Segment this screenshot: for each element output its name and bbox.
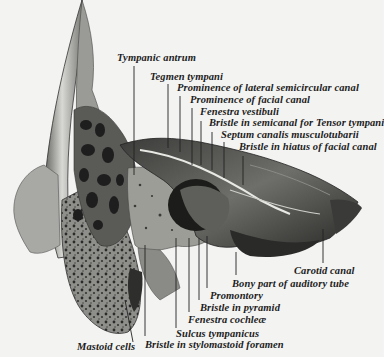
- label-tympanic-antrum: Tympanic antrum: [117, 53, 196, 64]
- label-bristle-hiatus-facial-canal: Bristle in hiatus of facial canal: [239, 142, 377, 153]
- label-tegmen-tympani: Tegmen tympani: [150, 72, 223, 83]
- label-promontory: Promontory: [210, 291, 263, 302]
- label-fenestra-vestibuli: Fenestra vestibuli: [200, 107, 279, 118]
- label-prominence-lateral-semicircular-canal: Prominence of lateral semicircular canal: [177, 83, 359, 94]
- label-bony-part-auditory-tube: Bony part of auditory tube: [232, 279, 349, 290]
- label-bristle-in-pyramid: Bristle in pyramid: [200, 303, 280, 314]
- label-sulcus-tympanicus: Sulcus tympanicus: [176, 329, 259, 340]
- label-carotid-canal: Carotid canal: [294, 266, 355, 277]
- label-fenestra-cochleae: Fenestra cochleæ: [188, 315, 266, 326]
- label-prominence-facial-canal: Prominence of facial canal: [190, 95, 310, 106]
- label-bristle-stylomastoid-foramen: Bristle in stylomastoid foramen: [145, 340, 284, 351]
- label-mastoid-cells: Mastoid cells: [77, 342, 135, 353]
- label-septum-canalis-musculotubarii: Septum canalis musculotubarii: [221, 130, 359, 141]
- label-bristle-semicanal-tensor-tympani: Bristle in semicanal for Tensor tympani: [209, 118, 384, 129]
